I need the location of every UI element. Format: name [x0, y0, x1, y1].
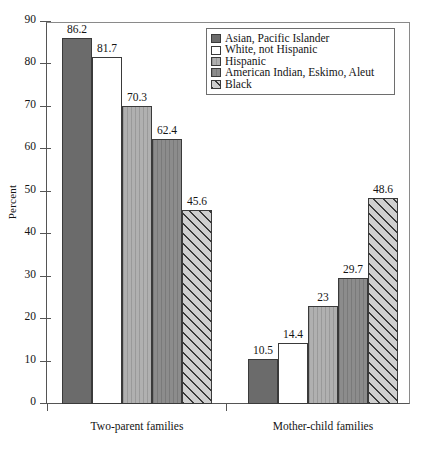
y-axis-tick-mark: [40, 21, 51, 22]
bar-value-label: 48.6: [359, 183, 407, 195]
y-axis-tick-label: 10: [0, 353, 36, 365]
bar-value-label: 81.7: [83, 42, 131, 54]
legend-item-label: Black: [225, 79, 252, 90]
legend-swatch-icon: [211, 80, 221, 89]
y-axis-tick-label: 60: [0, 140, 36, 152]
y-axis-tick-mark: [40, 148, 51, 149]
y-axis-tick-label: 70: [0, 98, 36, 110]
y-axis-tick-mark: [40, 63, 51, 64]
bar: [368, 198, 398, 404]
y-axis-tick-mark: [40, 403, 51, 404]
y-axis-tick-label: 40: [0, 225, 36, 237]
bar-value-label: 45.6: [173, 195, 221, 207]
y-axis-tick-label: 30: [0, 268, 36, 280]
bar: [278, 343, 308, 404]
x-axis-group-label: Mother-child families: [243, 420, 403, 432]
y-axis-tick-label: 50: [0, 183, 36, 195]
legend-swatch-icon: [211, 57, 221, 66]
legend-item: Black: [211, 79, 389, 90]
y-axis-tick-mark: [40, 318, 51, 319]
bar: [62, 38, 92, 404]
bar: [308, 306, 338, 404]
bar: [182, 210, 212, 404]
bar-chart: Percent 9080706050403020100 Two-parent f…: [0, 0, 423, 461]
legend-item-label: American Indian, Eskimo, Aleut: [225, 67, 374, 78]
legend-swatch-icon: [211, 68, 221, 77]
legend-swatch-icon: [211, 34, 221, 43]
x-axis-group-label: Two-parent families: [57, 420, 217, 432]
x-axis-tick-mark: [226, 404, 227, 411]
bar-value-label: 86.2: [53, 23, 101, 35]
y-axis-tick-mark: [40, 361, 51, 362]
legend-swatch-icon: [211, 46, 221, 55]
x-axis-tick-mark: [47, 404, 48, 411]
y-axis-tick-label: 0: [0, 395, 36, 407]
y-axis-tick-mark: [40, 191, 51, 192]
y-axis-tick-label: 90: [0, 13, 36, 25]
y-axis-tick-mark: [40, 106, 51, 107]
bar: [152, 139, 182, 404]
legend: Asian, Pacific IslanderWhite, not Hispan…: [206, 28, 395, 95]
bar: [122, 106, 152, 404]
y-axis-tick-label: 20: [0, 310, 36, 322]
y-axis-tick-mark: [40, 233, 51, 234]
bar: [92, 57, 122, 404]
bar-value-label: 62.4: [143, 124, 191, 136]
legend-item: American Indian, Eskimo, Aleut: [211, 67, 389, 78]
y-axis-tick-mark: [40, 276, 51, 277]
bar-value-label: 70.3: [113, 91, 161, 103]
y-axis-tick-label: 80: [0, 55, 36, 67]
bar: [338, 278, 368, 404]
bar: [248, 359, 278, 404]
